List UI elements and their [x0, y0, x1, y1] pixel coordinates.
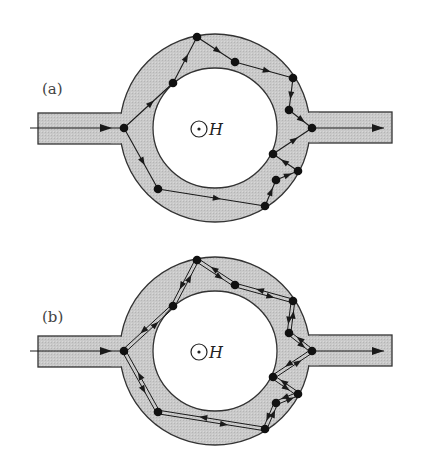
scatterer-node — [231, 58, 240, 67]
panel-b: (b)H — [30, 256, 392, 445]
scatterer-node — [308, 124, 317, 133]
scatterer-node — [193, 33, 202, 42]
scatterer-node — [169, 302, 178, 311]
scatterer-node — [261, 202, 270, 211]
scatterer-node — [272, 176, 281, 185]
aharonov-bohm-ring-diagram: (a)H (b)H — [0, 0, 424, 462]
scatterer-node — [272, 399, 281, 408]
scatterer-node — [120, 124, 129, 133]
field-label: H — [208, 343, 224, 362]
scatterer-node — [120, 347, 129, 356]
scatterer-node — [269, 373, 278, 382]
panel-a: (a)H — [30, 33, 392, 222]
scatterer-node — [154, 408, 163, 417]
scatterer-node — [308, 347, 317, 356]
field-label: H — [208, 120, 224, 139]
scatterer-node — [231, 281, 240, 290]
panel-label: (a) — [42, 80, 63, 98]
scatterer-node — [193, 256, 202, 265]
scatterer-node — [154, 185, 163, 194]
scatterer-node — [261, 425, 270, 434]
scatterer-node — [269, 150, 278, 159]
scatterer-node — [289, 74, 298, 83]
scatterer-node — [285, 106, 294, 115]
panel-label: (b) — [42, 308, 63, 326]
scatterer-node — [169, 79, 178, 88]
scatterer-node — [289, 297, 298, 306]
scatterer-node — [294, 167, 303, 176]
scatterer-node — [285, 329, 294, 338]
scatterer-node — [294, 390, 303, 399]
